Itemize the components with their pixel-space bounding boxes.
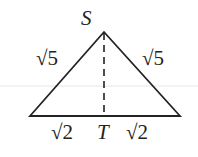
- left-side-label: √5: [36, 48, 58, 69]
- base-left-label: √2: [51, 122, 73, 143]
- apex-label: S: [81, 8, 92, 29]
- base-right-label: √2: [126, 122, 148, 143]
- triangle: [30, 32, 180, 116]
- foot-label: T: [97, 122, 109, 143]
- right-side-label: √5: [142, 48, 164, 69]
